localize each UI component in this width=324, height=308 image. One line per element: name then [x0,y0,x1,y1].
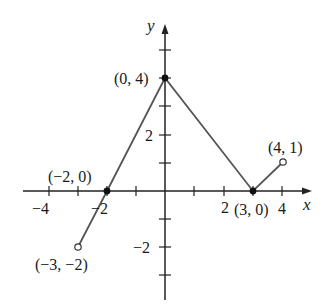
tick-label-x-m2: −2 [91,200,108,217]
function-line [78,78,282,247]
point-label-4-1: (4, 1) [268,139,303,157]
plot-area: y x −4 −2 2 4 2 −2 (0, 4) (−2, 0) (3, 0)… [0,0,324,308]
open-point-4-1 [280,159,286,165]
y-axis-arrow-icon [162,24,169,34]
graph-figure: y x −4 −2 2 4 2 −2 (0, 4) (−2, 0) (3, 0)… [0,0,324,308]
filled-point-0-4 [162,75,169,82]
filled-point-m2-0 [104,188,111,195]
point-label-3-0: (3, 0) [234,201,269,219]
open-point-m3-m2 [75,244,81,250]
filled-point-3-0 [250,188,257,195]
x-axis-label: x [302,195,311,214]
tick-label-x-m4: −4 [32,200,49,217]
tick-label-y-2: 2 [145,127,153,144]
tick-label-x-2: 2 [221,199,229,216]
x-axis-arrow-icon [302,188,312,195]
point-label-m3-m2: (−3, −2) [35,256,88,274]
tick-label-x-4: 4 [278,200,286,217]
tick-label-y-m2: −2 [133,239,150,256]
point-label-m2-0: (−2, 0) [48,168,92,186]
point-label-0-4: (0, 4) [114,70,149,88]
y-axis-label: y [145,16,155,35]
